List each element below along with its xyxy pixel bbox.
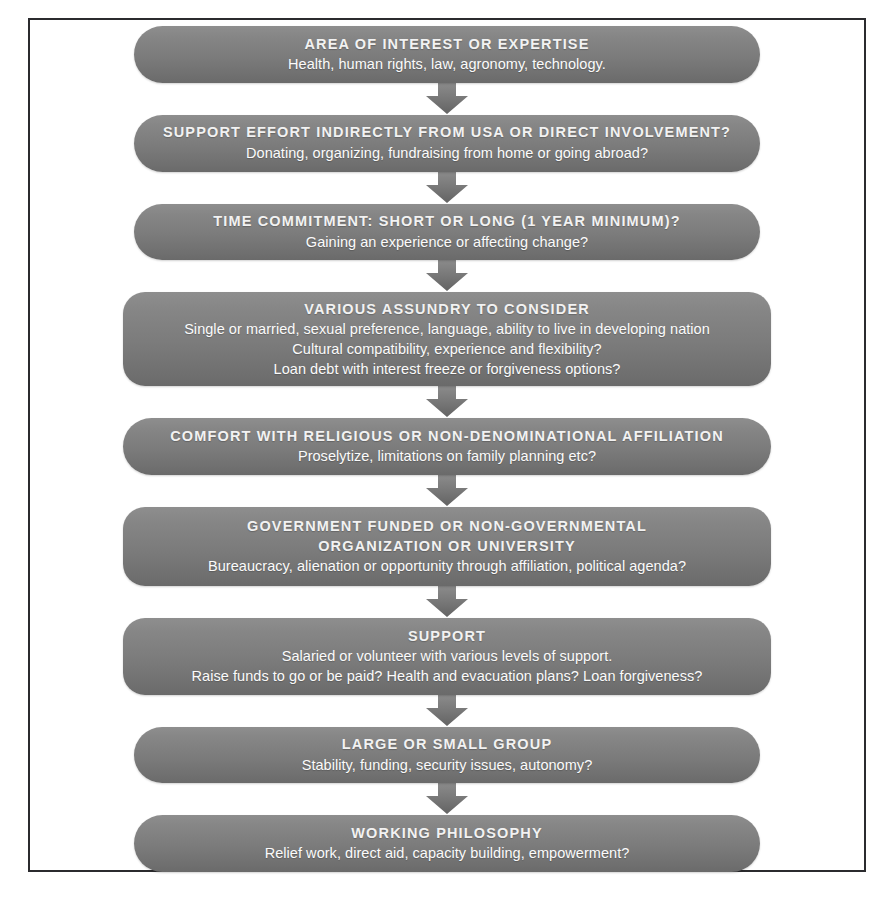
flow-node-detail-line: Stability, funding, security issues, aut… [302, 755, 593, 775]
flow-node-title-line2: ORGANIZATION OR UNIVERSITY [318, 537, 576, 556]
flow-connector-down-arrow-icon [424, 386, 470, 418]
flow-node-time-commitment: TIME COMMITMENT: SHORT OR LONG (1 YEAR M… [134, 204, 760, 261]
flow-node-various-assundry: VARIOUS ASSUNDRY TO CONSIDERSingle or ma… [123, 292, 771, 386]
flow-node-title: SUPPORT EFFORT INDIRECTLY FROM USA OR DI… [163, 123, 731, 142]
flow-connector-down-arrow-icon [424, 83, 470, 115]
flow-node-detail-line: Cultural compatibility, experience and f… [292, 339, 601, 359]
flow-node-title: VARIOUS ASSUNDRY TO CONSIDER [304, 300, 590, 319]
flow-node-support-effort: SUPPORT EFFORT INDIRECTLY FROM USA OR DI… [134, 115, 760, 172]
flow-connector-down-arrow-icon [424, 783, 470, 815]
flow-node-detail-line: Relief work, direct aid, capacity buildi… [265, 843, 630, 863]
flow-node-religious-affiliation: COMFORT WITH RELIGIOUS OR NON-DENOMINATI… [123, 418, 771, 475]
flow-node-detail-line: Raise funds to go or be paid? Health and… [192, 666, 703, 686]
cropped-caption-text [0, 0, 895, 3]
flow-node-title: AREA OF INTEREST OR EXPERTISE [305, 35, 590, 54]
flow-node-detail-line: Health, human rights, law, agronomy, tec… [288, 54, 606, 74]
flow-node-detail-line: Bureaucracy, alienation or opportunity t… [208, 556, 686, 576]
flow-node-detail-line: Loan debt with interest freeze or forgiv… [274, 359, 621, 379]
flow-node-title: SUPPORT [408, 627, 486, 646]
flowchart-container: AREA OF INTEREST OR EXPERTISEHealth, hum… [28, 18, 866, 872]
flow-node-detail-line: Gaining an experience or affecting chang… [306, 232, 588, 252]
flow-connector-down-arrow-icon [424, 260, 470, 292]
flow-connector-down-arrow-icon [424, 695, 470, 727]
flow-node-title: WORKING PHILOSOPHY [351, 824, 543, 843]
flow-node-title: GOVERNMENT FUNDED OR NON-GOVERNMENTAL [247, 517, 647, 536]
flow-node-funding-source: GOVERNMENT FUNDED OR NON-GOVERNMENTALORG… [123, 507, 771, 586]
flow-node-area-of-interest: AREA OF INTEREST OR EXPERTISEHealth, hum… [134, 26, 760, 83]
flow-connector-down-arrow-icon [424, 586, 470, 618]
flow-connector-down-arrow-icon [424, 172, 470, 204]
flow-node-title: LARGE OR SMALL GROUP [342, 735, 552, 754]
flow-node-detail-line: Donating, organizing, fundraising from h… [246, 143, 648, 163]
flow-node-detail-line: Single or married, sexual preference, la… [184, 319, 710, 339]
flow-node-detail-line: Proselytize, limitations on family plann… [298, 446, 596, 466]
flow-node-support: SUPPORTSalaried or volunteer with variou… [123, 618, 771, 694]
flow-node-title: COMFORT WITH RELIGIOUS OR NON-DENOMINATI… [170, 427, 724, 446]
flow-node-working-philosophy: WORKING PHILOSOPHYRelief work, direct ai… [134, 815, 760, 872]
flow-node-group-size: LARGE OR SMALL GROUPStability, funding, … [134, 727, 760, 784]
flow-connector-down-arrow-icon [424, 475, 470, 507]
flow-node-detail-line: Salaried or volunteer with various level… [282, 646, 613, 666]
flow-node-title: TIME COMMITMENT: SHORT OR LONG (1 YEAR M… [213, 212, 680, 231]
